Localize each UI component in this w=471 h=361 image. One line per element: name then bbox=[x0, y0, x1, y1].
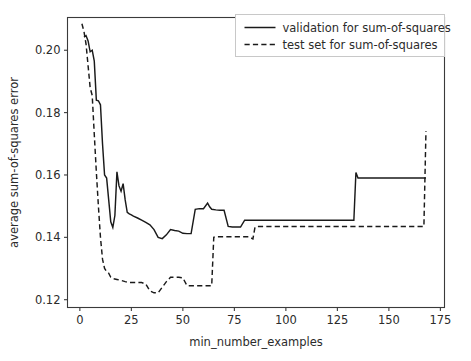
x-tick-label: 125 bbox=[326, 313, 348, 327]
x-tick-label: 150 bbox=[378, 313, 400, 327]
legend: validation for sum-of-squares test set f… bbox=[236, 15, 451, 57]
chart-figure: 0255075100125150175 0.120.140.160.180.20… bbox=[0, 0, 471, 361]
x-axis-title: min_number_examples bbox=[189, 335, 323, 349]
legend-label-validation: validation for sum-of-squares bbox=[283, 21, 451, 35]
legend-label-test-set: test set for sum-of-squares bbox=[283, 38, 438, 52]
x-tick-label: 75 bbox=[227, 313, 242, 327]
y-tick-label: 0.18 bbox=[35, 106, 61, 120]
y-tick-label: 0.16 bbox=[35, 168, 61, 182]
x-tick-label: 100 bbox=[275, 313, 297, 327]
x-tick-label: 175 bbox=[429, 313, 451, 327]
y-tick-label: 0.20 bbox=[35, 43, 61, 57]
line-chart: 0255075100125150175 0.120.140.160.180.20… bbox=[0, 0, 471, 361]
y-axis-title: average sum-of-squares error bbox=[7, 77, 21, 248]
y-tick-label: 0.14 bbox=[35, 230, 61, 244]
y-tick-label: 0.12 bbox=[35, 293, 61, 307]
x-tick-label: 50 bbox=[176, 313, 191, 327]
x-tick-label: 25 bbox=[124, 313, 139, 327]
x-tick-label: 0 bbox=[76, 313, 83, 327]
